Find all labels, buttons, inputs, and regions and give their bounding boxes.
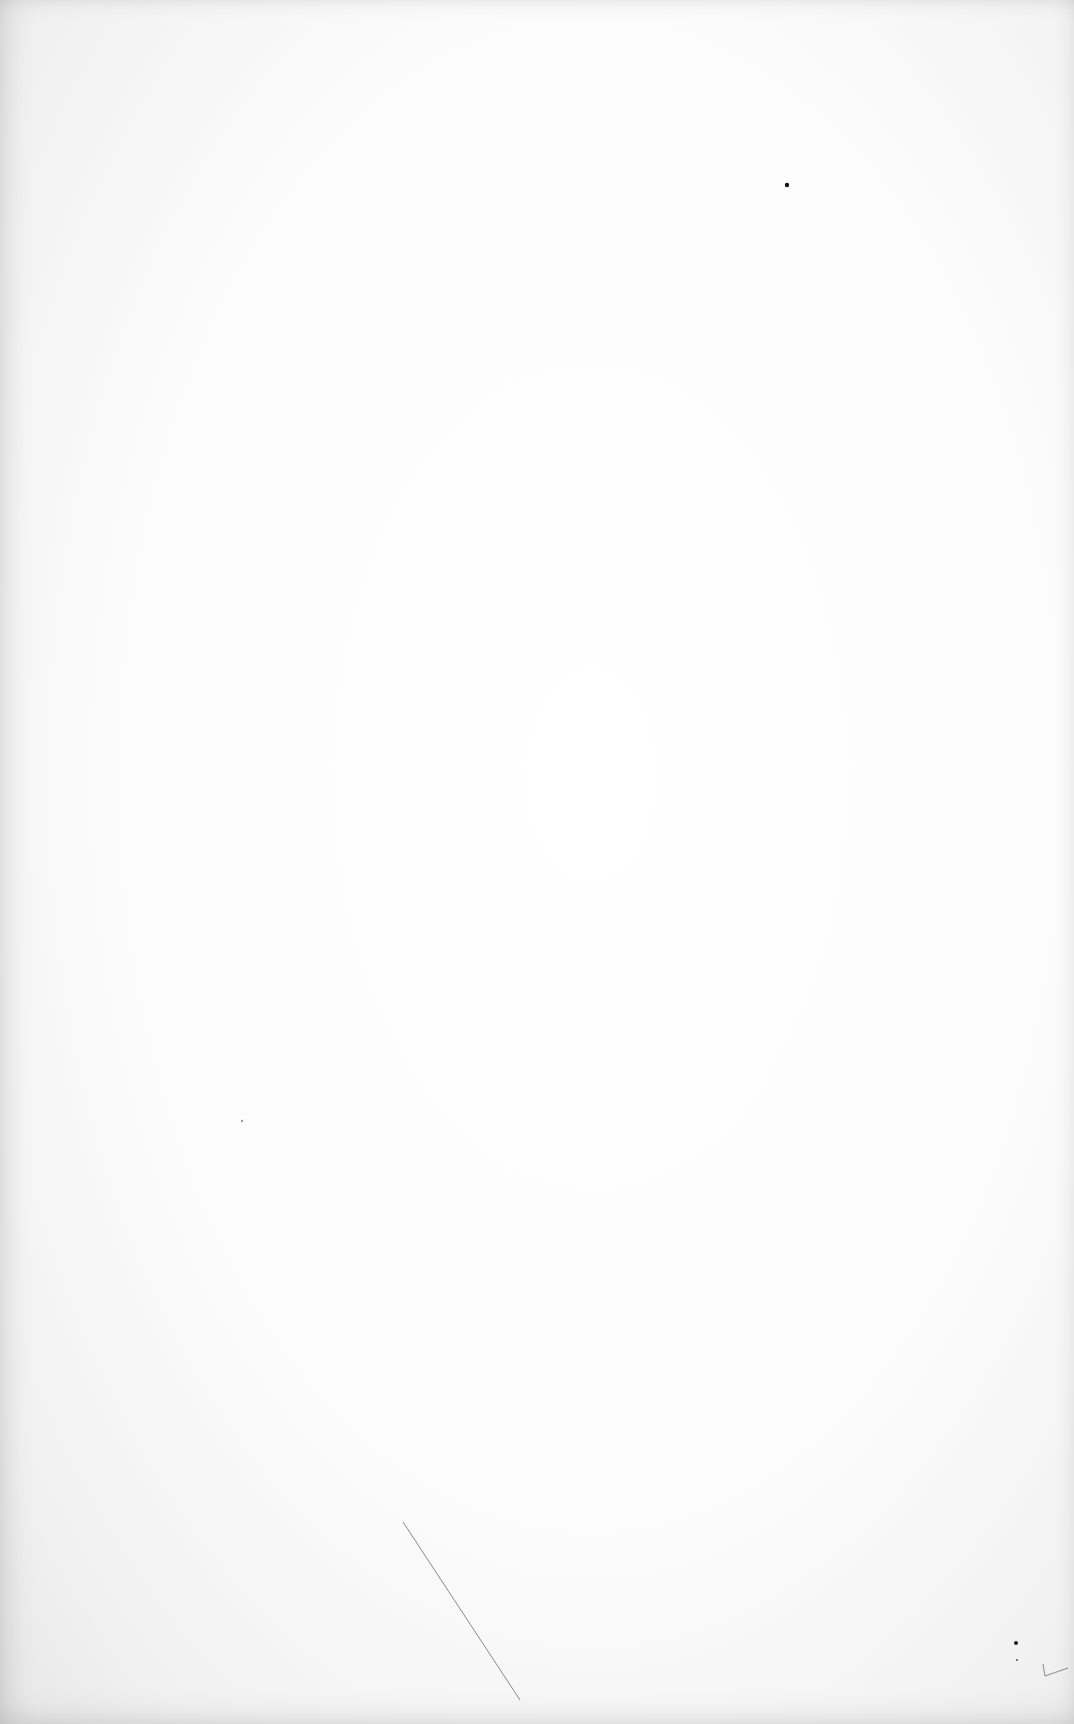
- bottom-right-speck-mark: [1016, 1659, 1018, 1661]
- blank-paper-sheet: [0, 0, 1074, 1724]
- left-speck-mark: [241, 1120, 243, 1122]
- diagonal-pencil-stroke: [403, 1522, 520, 1700]
- bottom-right-dot-mark: [1014, 1641, 1018, 1645]
- pen-marks: [0, 0, 1074, 1724]
- top-dot-mark: [785, 183, 789, 187]
- hook-pencil-stroke: [1043, 1664, 1068, 1676]
